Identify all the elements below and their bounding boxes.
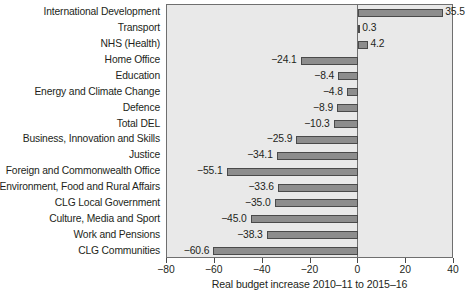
bar [358,41,368,49]
x-axis-tick-label: −80 [146,264,186,276]
bar-value-label: −45.0 [0,213,247,224]
bar-value-label: −25.9 [0,133,292,144]
bar-value-label: −38.3 [0,229,263,240]
bar-value-label: 0.3 [362,22,376,33]
bar [358,25,360,33]
x-axis-tick [214,258,215,263]
x-axis-tick [310,258,311,263]
bar [338,72,358,80]
bar-value-label: −8.4 [0,70,334,81]
bar [301,57,359,65]
category-label: International Development [0,6,160,17]
bar [213,247,358,255]
x-axis-tick [405,258,406,263]
bar-value-label: −60.6 [0,245,209,256]
bar [227,168,359,176]
bar [296,136,358,144]
x-axis-tick-label: 0 [337,264,377,276]
bar-value-label: −8.9 [0,102,333,113]
bar [278,184,358,192]
x-axis-tick [357,258,358,263]
category-label: Transport [0,22,160,33]
x-axis-tick-label: −40 [242,264,282,276]
bar-value-label: −24.1 [0,54,297,65]
x-axis-tick-label: 40 [433,264,470,276]
bar [337,104,358,112]
bar-value-label: −10.3 [0,118,330,129]
bar-value-label: −55.1 [0,165,223,176]
bar-value-label: 35.5 [445,6,465,17]
bar [275,199,359,207]
bar [334,120,359,128]
bar-value-label: −35.0 [0,197,271,208]
bar [347,88,358,96]
bar [267,231,359,239]
x-axis-tick [453,258,454,263]
bar [358,9,443,17]
bar-value-label: −33.6 [0,181,274,192]
x-axis-tick-label: −20 [290,264,330,276]
x-axis-title: Real budget increase 2010–11 to 2015–16 [166,278,453,291]
category-label: NHS (Health) [0,38,160,49]
bar [277,152,359,160]
bar-value-label: −34.1 [0,149,273,160]
x-axis-tick-label: 20 [385,264,425,276]
x-axis-tick [262,258,263,263]
bar-value-label: −4.8 [0,86,343,97]
bar [251,215,359,223]
x-axis-tick [166,258,167,263]
bar-value-label: 4.2 [370,38,384,49]
x-axis-tick-label: −60 [194,264,234,276]
